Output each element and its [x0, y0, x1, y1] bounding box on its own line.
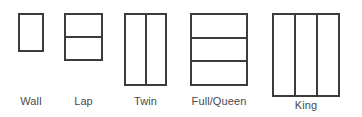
- shape-segment: [316, 15, 338, 95]
- size-figure-king: King: [0, 0, 362, 117]
- shape-segment: [274, 15, 294, 95]
- shape-king: [272, 13, 340, 97]
- size-comparison-diagram: WallLapTwinFull/QueenKing: [0, 0, 362, 117]
- shape-segment: [294, 15, 316, 95]
- size-label-king: King: [272, 99, 340, 112]
